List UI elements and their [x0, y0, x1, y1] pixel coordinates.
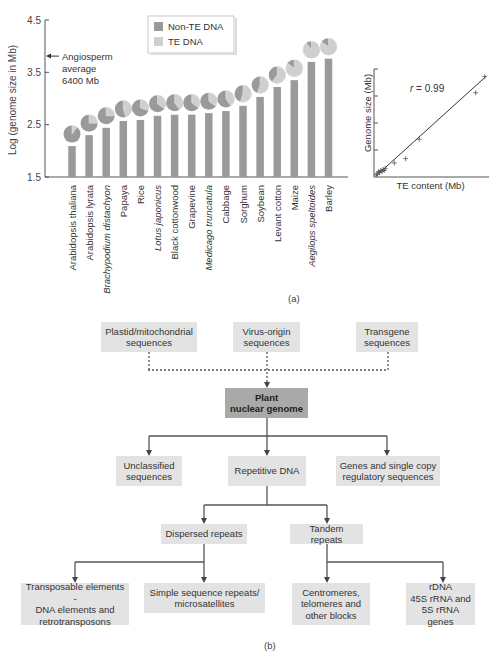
genes-single-copy-box: Genes and single copyregulatory sequence…	[336, 456, 440, 486]
dispersed-repeats-box: Dispersed repeats	[161, 524, 247, 544]
transposable-elements-box: Transposable elements -DNA elements andr…	[21, 583, 129, 625]
simple-sequence-repeats-box: Simple sequence repeats/microsatellites	[144, 583, 265, 613]
plant-nuclear-genome-box: Plantnuclear genome	[225, 388, 308, 418]
centromeres-telomeres-box: Centromeres,telomeres andother blocks	[292, 583, 370, 625]
unclassified-sequences-box: Unclassifiedsequences	[116, 456, 182, 486]
transgene-box: Transgenesequences	[356, 322, 418, 352]
repetitive-dna-box: Repetitive DNA	[228, 456, 306, 486]
panel-b-label: (b)	[264, 640, 276, 651]
virus-origin-box: Virus-originsequences	[233, 322, 300, 352]
rdna-box: rDNA45S rRNA and5S rRNA genes	[406, 583, 475, 625]
plastid-mitochondrial-box: Plastid/mitochondrialsequences	[101, 322, 197, 352]
tandem-repeats-box: Tandem repeats	[290, 524, 363, 544]
